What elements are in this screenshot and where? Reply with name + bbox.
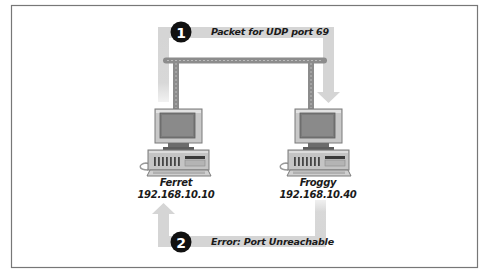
ferret-hostname: Ferret	[160, 177, 194, 188]
step-1-badge: 1	[171, 22, 192, 43]
ferret-ip-address: 192.168.10.10	[137, 189, 214, 200]
udp-port-unreachable-diagram: 1 Packet for UDP port 69 2 Error: Port U…	[0, 0, 486, 276]
step-2-label: Error: Port Unreachable	[211, 236, 335, 247]
svg-text:2: 2	[176, 235, 186, 251]
step-1-label: Packet for UDP port 69	[211, 26, 329, 37]
froggy-ip-address: 192.168.10.40	[279, 189, 356, 200]
svg-text:1: 1	[176, 25, 186, 41]
froggy-hostname: Froggy	[300, 177, 337, 188]
figure-frame	[12, 6, 478, 268]
step-2-badge: 2	[171, 232, 192, 253]
